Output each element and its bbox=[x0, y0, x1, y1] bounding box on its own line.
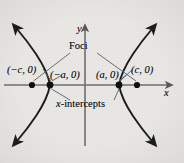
foci-label: Foci bbox=[69, 41, 88, 52]
figure-canvas bbox=[0, 0, 184, 163]
curve-left-lower bbox=[17, 85, 50, 141]
leader-intercepts-right bbox=[114, 89, 119, 100]
hyperbola-figure: y x Foci x-intercepts (−c, 0) (−a, 0) (a… bbox=[0, 0, 184, 163]
y-axis-label: y bbox=[77, 24, 82, 35]
point-label-vertex-left: (−a, 0) bbox=[50, 70, 80, 81]
point-label-focus-left: (−c, 0) bbox=[7, 65, 36, 76]
x-intercepts-label-rest: -intercepts bbox=[61, 98, 105, 109]
curve-right-lower bbox=[119, 85, 152, 141]
x-intercepts-label: x-intercepts bbox=[56, 99, 105, 110]
point-label-focus-right: (c, 0) bbox=[131, 65, 153, 76]
dot-vertex-left bbox=[47, 82, 54, 89]
dot-focus-right bbox=[134, 82, 140, 88]
dot-vertex-right bbox=[116, 82, 123, 89]
dot-focus-left bbox=[29, 82, 35, 88]
point-label-vertex-right: (a, 0) bbox=[96, 70, 119, 81]
curve-left-upper bbox=[17, 29, 50, 85]
x-axis-label: x bbox=[164, 88, 169, 99]
